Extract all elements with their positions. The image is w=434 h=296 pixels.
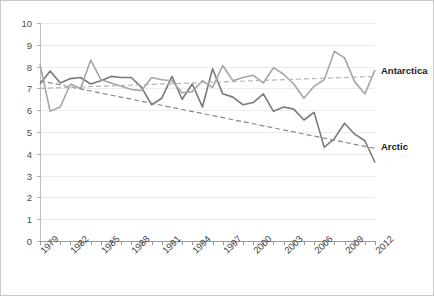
y-tick-label: 8 <box>6 61 32 72</box>
x-tick-mark <box>60 241 61 245</box>
y-tick-label: 9 <box>6 39 32 50</box>
chart-figure: 0123456789101979198219851988199119941997… <box>0 0 434 296</box>
x-tick-mark <box>121 241 122 245</box>
series-line-antarctica <box>40 51 375 111</box>
y-tick-label: 3 <box>6 170 32 181</box>
y-tick-label: 10 <box>6 18 32 29</box>
x-tick-mark <box>91 241 92 245</box>
x-tick-mark <box>334 241 335 245</box>
plot-area: 0123456789101979198219851988199119941997… <box>40 23 375 241</box>
x-tick-mark <box>152 241 153 245</box>
x-tick-mark <box>243 241 244 245</box>
y-tick-label: 5 <box>6 127 32 138</box>
y-tick-label: 1 <box>6 214 32 225</box>
x-tick-mark <box>213 241 214 245</box>
y-tick-label: 0 <box>6 236 32 247</box>
series-line-arctic <box>40 69 375 163</box>
series-label-arctic: Arctic <box>381 141 408 152</box>
x-tick-mark <box>304 241 305 245</box>
x-tick-label: 2012 <box>373 233 396 256</box>
series-lines <box>40 23 375 241</box>
y-tick-label: 4 <box>6 148 32 159</box>
x-tick-mark <box>182 241 183 245</box>
x-tick-mark <box>273 241 274 245</box>
y-tick-label: 6 <box>6 105 32 116</box>
y-tick-label: 7 <box>6 83 32 94</box>
x-tick-mark <box>365 241 366 245</box>
y-tick-label: 2 <box>6 192 32 203</box>
series-label-antarctica: Antarctica <box>381 65 427 76</box>
